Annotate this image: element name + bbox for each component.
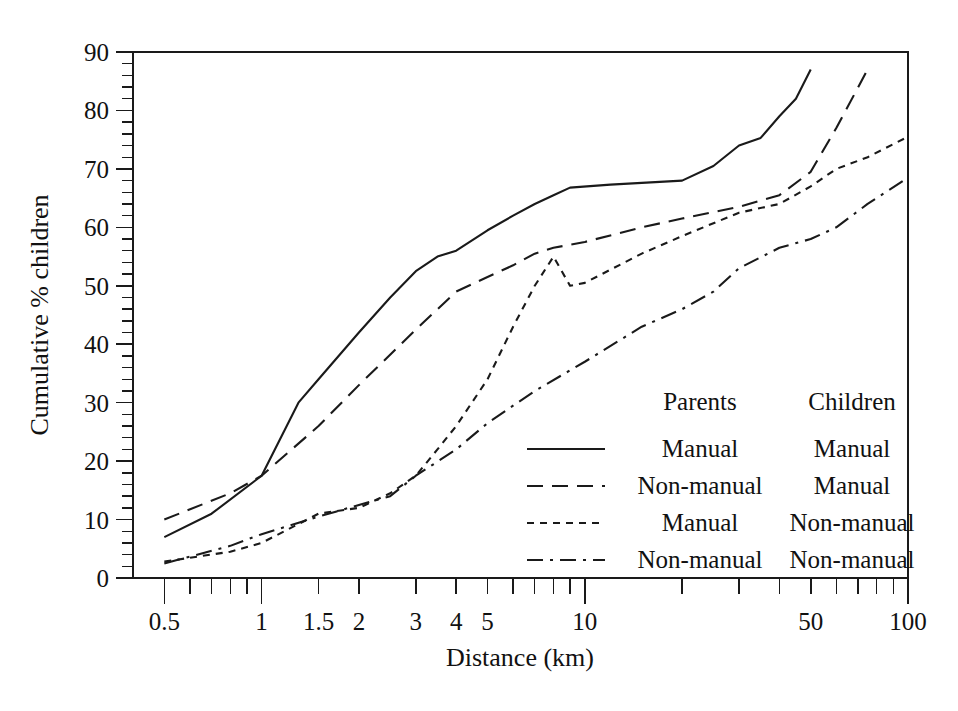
x-tick-label: 0.5 — [149, 608, 180, 635]
legend-parents-1: Non-manual — [638, 472, 763, 499]
minor-ticks-y — [122, 64, 133, 567]
major-ticks-y — [116, 52, 133, 578]
y-tick-label: 10 — [84, 507, 109, 534]
legend-children-1: Manual — [814, 472, 890, 499]
axis-frame — [133, 52, 908, 578]
x-tick-label: 1.5 — [303, 608, 334, 635]
series-group — [164, 70, 908, 564]
x-tick-label: 1 — [255, 608, 268, 635]
y-tick-label: 50 — [84, 273, 109, 300]
y-tick-label: 20 — [84, 448, 109, 475]
y-axis-title: Cumulative % children — [25, 194, 54, 435]
series-line-manual-manual — [164, 70, 810, 538]
series-line-manual-nonmanual — [164, 137, 908, 562]
ytick-labels: 0102030405060708090 — [84, 39, 109, 592]
x-tick-label: 3 — [410, 608, 423, 635]
y-tick-label: 70 — [84, 156, 109, 183]
legend: ParentsChildrenManualManualNon-manualMan… — [527, 388, 915, 573]
y-tick-label: 60 — [84, 214, 109, 241]
legend-children-2: Non-manual — [790, 509, 915, 536]
legend-children-3: Non-manual — [790, 546, 915, 573]
legend-parents-0: Manual — [662, 435, 738, 462]
legend-header-children: Children — [808, 388, 896, 415]
x-tick-label: 10 — [572, 608, 597, 635]
legend-parents-3: Non-manual — [638, 546, 763, 573]
y-tick-label: 30 — [84, 390, 109, 417]
legend-children-0: Manual — [814, 435, 890, 462]
x-axis-title: Distance (km) — [446, 643, 594, 672]
line-chart-svg: 0102030405060708090 0.511.523451050100 P… — [0, 0, 958, 711]
x-tick-label: 100 — [889, 608, 927, 635]
x-tick-label: 50 — [798, 608, 823, 635]
major-ticks-x — [164, 578, 908, 604]
legend-parents-2: Manual — [662, 509, 738, 536]
y-tick-label: 40 — [84, 331, 109, 358]
minor-ticks-x — [190, 578, 893, 594]
y-tick-label: 80 — [84, 97, 109, 124]
x-tick-label: 4 — [450, 608, 463, 635]
series-line-nonmanual-nonmanual — [164, 178, 908, 564]
x-tick-label: 5 — [481, 608, 494, 635]
xtick-labels: 0.511.523451050100 — [149, 608, 927, 635]
y-tick-label: 0 — [97, 565, 110, 592]
x-tick-label: 2 — [353, 608, 366, 635]
legend-header-parents: Parents — [663, 388, 737, 415]
y-tick-label: 90 — [84, 39, 109, 66]
chart-figure: 0102030405060708090 0.511.523451050100 P… — [0, 0, 958, 711]
